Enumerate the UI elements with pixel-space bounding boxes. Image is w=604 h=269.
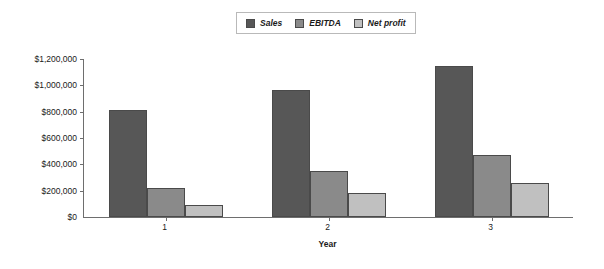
y-axis-tick-label: $400,000 [42, 160, 84, 169]
legend-swatch-icon [295, 19, 304, 28]
y-axis-tick-label: $0 [68, 213, 84, 222]
bar-group [84, 59, 247, 217]
x-axis-title: Year [83, 240, 572, 249]
x-axis-tick-mark [329, 217, 330, 221]
legend-label: Net profit [368, 19, 406, 28]
bar[interactable] [348, 193, 386, 217]
bar[interactable] [147, 188, 185, 217]
bar[interactable] [109, 110, 147, 217]
legend-label: EBITDA [309, 19, 341, 28]
bar[interactable] [272, 90, 310, 217]
bar-group [247, 59, 410, 217]
bar[interactable] [473, 155, 511, 217]
x-axis-tick-mark [166, 217, 167, 221]
bar[interactable] [511, 183, 549, 217]
legend-swatch-icon [354, 19, 363, 28]
y-axis-tick-label: $1,200,000 [34, 55, 84, 64]
y-axis-tick-label: $600,000 [42, 134, 84, 143]
plot-area: $0$200,000$400,000$600,000$800,000$1,000… [83, 59, 573, 218]
legend-entry[interactable]: Sales [246, 19, 282, 28]
legend-entry[interactable]: Net profit [354, 19, 406, 28]
y-axis-tick-label: $200,000 [42, 186, 84, 195]
bar[interactable] [310, 171, 348, 217]
legend-entry[interactable]: EBITDA [295, 19, 341, 28]
y-axis-tick-label: $1,000,000 [34, 81, 84, 90]
legend-swatch-icon [246, 19, 255, 28]
bar[interactable] [185, 205, 223, 217]
y-axis-tick-label: $800,000 [42, 107, 84, 116]
x-axis-tick-labels: 123 [83, 223, 572, 232]
bar-chart: SalesEBITDANet profit $0$200,000$400,000… [0, 0, 604, 269]
legend-label: Sales [260, 19, 282, 28]
x-axis-tick-label: 3 [409, 223, 572, 232]
chart-legend: SalesEBITDANet profit [236, 12, 416, 34]
bar-group [410, 59, 573, 217]
x-axis-tick-label: 2 [246, 223, 409, 232]
bar-groups [84, 59, 573, 217]
x-axis-tick-mark [492, 217, 493, 221]
x-axis-tick-label: 1 [83, 223, 246, 232]
bar[interactable] [435, 66, 473, 217]
